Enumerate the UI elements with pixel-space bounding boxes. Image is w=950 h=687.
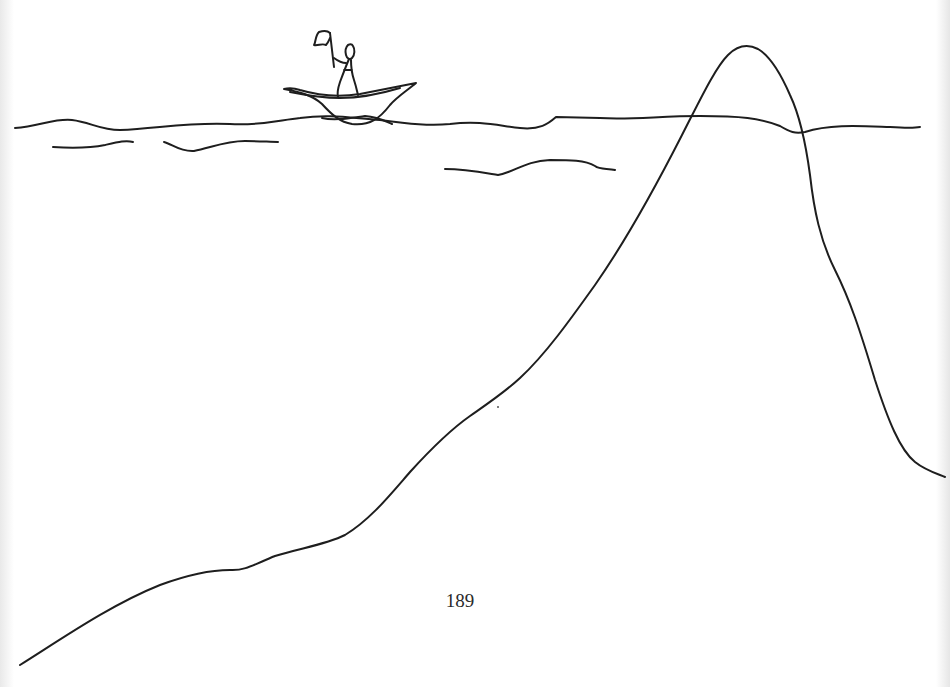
water-surface-line: [15, 116, 920, 133]
stick-figure-head: [346, 44, 355, 59]
stick-figure-arm: [334, 58, 346, 63]
book-page: 189: [0, 0, 950, 687]
iceberg-illustration: [0, 0, 950, 687]
water-ripple-line-1: [53, 141, 133, 147]
water-ripple-line-3: [445, 160, 615, 175]
stick-figure-body: [338, 59, 358, 97]
page-number: 189: [400, 590, 520, 612]
scan-speck: [497, 406, 499, 408]
mountain-outline: [20, 46, 945, 665]
water-ripple-line-2: [164, 141, 278, 151]
flag: [314, 31, 330, 45]
